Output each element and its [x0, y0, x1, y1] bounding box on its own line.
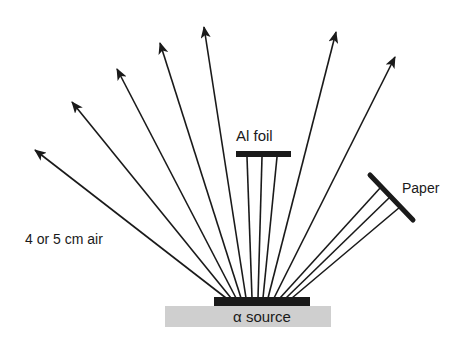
alpha-source-label: α source — [233, 308, 291, 325]
alpha-ray-stopped-by-paper — [292, 207, 400, 298]
alpha-ray-arrow — [72, 102, 231, 298]
alpha-ray-stopped-by-paper — [286, 197, 390, 298]
foil-rays — [247, 157, 277, 298]
alpha-ray-arrow — [268, 32, 336, 298]
alpha-ray-stopped-by-foil — [263, 157, 277, 298]
alpha-ray-arrow — [204, 27, 246, 298]
al-foil-label: Al foil — [236, 127, 273, 144]
alpha-source-emitter — [214, 297, 310, 306]
paper-label: Paper — [402, 180, 440, 196]
alpha-ray-stopped-by-foil — [258, 157, 262, 298]
al-foil-barrier — [236, 151, 291, 157]
alpha-penetration-diagram: Al foil Paper 4 or 5 cm air α source — [0, 0, 474, 345]
alpha-ray-stopped-by-paper — [280, 187, 381, 298]
alpha-ray-arrow — [117, 69, 236, 298]
alpha-ray-stopped-by-foil — [247, 157, 252, 298]
air-distance-label: 4 or 5 cm air — [25, 231, 103, 247]
paper-rays — [280, 187, 400, 298]
